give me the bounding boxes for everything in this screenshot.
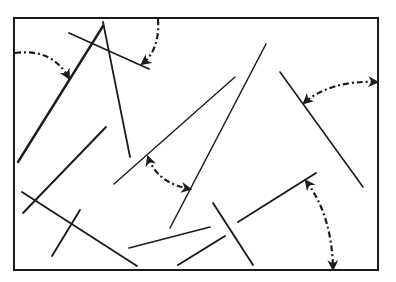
line-segment-j [129,227,210,248]
line-segment-c [69,33,149,69]
line-segments [18,22,363,266]
line-segment-a [18,26,103,162]
line-segment-l [213,203,253,265]
diagram-frame [14,18,378,270]
line-segment-m [238,173,316,222]
arc-middle-arrow-icon [148,157,190,189]
line-segment-g [114,77,235,184]
arc-top-arrow-icon [142,19,158,64]
arc-right-arrow-icon [304,82,377,103]
arc-top-left-arrow-icon [15,52,69,78]
diagram-canvas [0,0,396,282]
line-segment-e [22,192,137,266]
line-segment-i [280,72,363,187]
line-segment-k [178,236,225,265]
line-segment-f [52,210,80,256]
arc-bottom-right-arrow-icon [306,181,333,269]
line-segment-h [170,44,266,228]
line-segment-b [103,22,130,157]
